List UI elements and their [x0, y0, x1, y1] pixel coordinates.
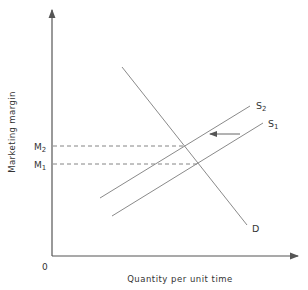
supply-curve-s2: [100, 106, 250, 198]
m2-label: M2: [34, 142, 46, 154]
s1-label: S1: [268, 118, 279, 131]
supply-curve-s1: [112, 123, 263, 216]
x-axis-label: Quantity per unit time: [127, 274, 233, 284]
supply-demand-diagram: 0 Quantity per unit time Marketing margi…: [0, 0, 308, 290]
origin-label: 0: [42, 262, 48, 272]
m1-label: M1: [34, 160, 46, 172]
s2-label: S2: [256, 100, 267, 113]
d-label: D: [252, 223, 259, 234]
y-axis-label: Marketing margin: [7, 91, 17, 172]
